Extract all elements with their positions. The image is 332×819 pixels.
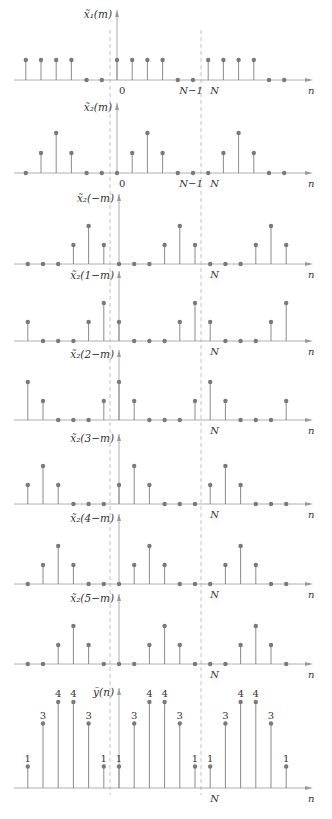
- stem-dot: [26, 380, 30, 384]
- stem-dot: [238, 544, 242, 548]
- value-label: 1: [116, 753, 122, 764]
- stem-dot: [84, 78, 88, 82]
- stem-dot: [41, 399, 45, 403]
- value-label: 4: [70, 688, 76, 699]
- stem-dot: [100, 78, 104, 82]
- arrow-up-icon: [117, 688, 121, 695]
- stem-dot: [252, 151, 256, 155]
- value-label: 3: [131, 710, 137, 721]
- tick-label: N−1: [178, 178, 203, 189]
- stem-dot: [191, 171, 195, 175]
- stem-dot: [208, 483, 212, 487]
- stem-dot: [102, 662, 106, 666]
- stem-dot: [86, 582, 90, 586]
- stem-dot: [147, 544, 151, 548]
- stem-dot: [115, 171, 119, 175]
- stem-plot-x2_4m: x̃₂(4−m)nN: [14, 512, 314, 600]
- stem-dot: [178, 643, 182, 647]
- stem-plots: x̃₁(m)n0N−1Nx̃₂(m)n0N−1Nx̃₂(−m)nNx̃₂(1−m…: [0, 0, 332, 819]
- stem-dot: [284, 243, 288, 247]
- axis-label-n: n: [308, 178, 314, 189]
- stem-dot: [178, 721, 182, 725]
- stem-dot: [117, 320, 121, 324]
- stem-dot: [162, 700, 166, 704]
- tick-label: N: [209, 669, 220, 680]
- stem-dot: [162, 502, 166, 506]
- stem-plot-x2_2m: x̃₂(2−m)nN: [14, 348, 314, 436]
- stem-plot-x1: x̃₁(m)n0N−1N: [14, 8, 314, 96]
- stem-dot: [193, 399, 197, 403]
- arrow-right-icon: [305, 171, 313, 175]
- stem-dot: [39, 151, 43, 155]
- stem-dot: [193, 582, 197, 586]
- periodic-convolution-figure: x̃₁(m)n0N−1Nx̃₂(m)n0N−1Nx̃₂(−m)nNx̃₂(1−m…: [0, 0, 332, 819]
- stem-dot: [147, 262, 151, 266]
- stem-dot: [236, 58, 240, 62]
- value-label: 4: [253, 688, 259, 699]
- axis-label-n: n: [308, 509, 314, 520]
- plot-label: ỹ(n): [92, 686, 114, 698]
- stem-dot: [69, 151, 73, 155]
- stem-dot: [162, 243, 166, 247]
- value-label: 1: [192, 753, 198, 764]
- value-label: 3: [177, 710, 183, 721]
- stem-dot: [254, 502, 258, 506]
- plot-label: x̃₂(4−m): [70, 512, 114, 524]
- stem-dot: [269, 643, 273, 647]
- stem-dot: [86, 320, 90, 324]
- stem-dot: [102, 502, 106, 506]
- axis-label-n: n: [308, 269, 314, 280]
- stem-dot: [223, 399, 227, 403]
- plot-label: x̃₂(2−m): [70, 348, 114, 360]
- stem-dot: [208, 582, 212, 586]
- stem-dot: [269, 418, 273, 422]
- stem-dot: [191, 78, 195, 82]
- tick-label: 0: [119, 85, 125, 96]
- stem-dot: [223, 563, 227, 567]
- stem-dot: [132, 464, 136, 468]
- arrow-up-icon: [117, 514, 121, 521]
- stem-dot: [39, 58, 43, 62]
- tick-label: N: [209, 269, 220, 280]
- stem-dot: [145, 131, 149, 135]
- axis-label-n: n: [308, 425, 314, 436]
- value-label: 4: [55, 688, 61, 699]
- stem-dot: [223, 339, 227, 343]
- arrow-up-icon: [117, 594, 121, 601]
- arrow-up-icon: [117, 271, 121, 278]
- stem-dot: [71, 502, 75, 506]
- tick-label: N: [209, 509, 220, 520]
- stem-dot: [56, 700, 60, 704]
- stem-dot: [223, 262, 227, 266]
- value-label: 4: [161, 688, 167, 699]
- arrow-right-icon: [305, 418, 313, 422]
- stem-dot: [71, 700, 75, 704]
- stem-dot: [284, 399, 288, 403]
- stem-dot: [54, 58, 58, 62]
- arrow-right-icon: [305, 582, 313, 586]
- stem-dot: [56, 339, 60, 343]
- stem-dot: [178, 320, 182, 324]
- stem-dot: [223, 662, 227, 666]
- tick-label: N: [209, 589, 220, 600]
- stem-dot: [284, 301, 288, 305]
- value-label: 1: [101, 753, 107, 764]
- stem-dot: [24, 58, 28, 62]
- stem-dot: [147, 418, 151, 422]
- stem-dot: [254, 418, 258, 422]
- arrow-right-icon: [305, 262, 313, 266]
- stem-dot: [238, 339, 242, 343]
- stem-dot: [162, 624, 166, 628]
- stem-dot: [193, 301, 197, 305]
- stem-dot: [86, 224, 90, 228]
- value-label: 4: [237, 688, 243, 699]
- stem-dot: [282, 78, 286, 82]
- tick-label: 0: [119, 178, 125, 189]
- stem-dot: [26, 483, 30, 487]
- stem-dot: [284, 764, 288, 768]
- arrow-up-icon: [117, 194, 121, 201]
- stem-dot: [236, 131, 240, 135]
- stem-dot: [69, 58, 73, 62]
- axis-label-n: n: [308, 793, 314, 804]
- stem-dot: [117, 483, 121, 487]
